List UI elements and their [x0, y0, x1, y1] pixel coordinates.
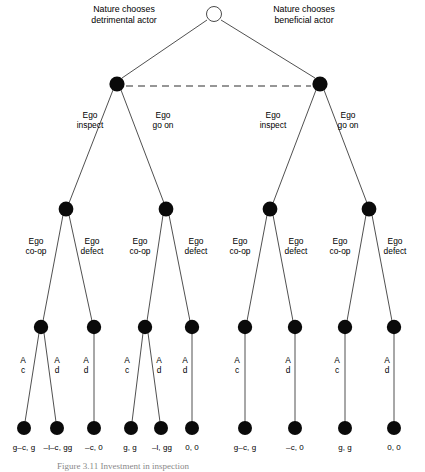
edge-n7-t1	[25, 333, 39, 422]
payoff-label-10: 0, 0	[387, 443, 401, 453]
action-label-a-d-2: A d	[83, 355, 89, 375]
edge-n1-n3	[69, 90, 113, 203]
edge-n7-t2	[44, 333, 56, 422]
edge-n6-n14	[372, 215, 392, 321]
action-label-a-d-5: A d	[285, 355, 291, 375]
edge-n5-n12	[273, 215, 293, 321]
node-alter-l4-4	[185, 320, 199, 334]
edge-label-ego-go-on-right: Ego go on	[338, 110, 359, 130]
terminal-node-6	[185, 421, 199, 435]
action-label-a-d-4: A d	[182, 355, 188, 375]
edge-n2-n6	[324, 90, 367, 203]
payoff-label-5: –l, gg	[152, 443, 172, 453]
edge-root-left	[122, 20, 207, 78]
edge-label-ego-defect-1: Ego defect	[81, 236, 104, 256]
edge-n1-n4	[121, 90, 164, 203]
terminal-node-2	[50, 421, 64, 435]
node-alter-l4-7	[338, 320, 352, 334]
edge-label-ego-coop-4: Ego co-op	[330, 236, 351, 256]
edge-label-ego-defect-4: Ego defect	[384, 236, 407, 256]
node-ego-l3-3	[263, 202, 278, 217]
nature-label-left: Nature chooses detrimental actor	[91, 4, 157, 26]
node-ego-beneficial	[312, 76, 327, 91]
edge-root-right	[221, 20, 315, 78]
node-alter-l4-8	[387, 320, 401, 334]
payoff-label-4: g, g	[123, 443, 137, 453]
terminal-node-10	[387, 421, 401, 435]
game-tree-figure: Nature chooses detrimental actor Nature …	[0, 0, 425, 472]
edge-label-ego-coop-1: Ego co-op	[26, 236, 47, 256]
action-label-a-c-4: A c	[334, 355, 340, 375]
edge-n2-n5	[273, 90, 316, 203]
edge-label-ego-defect-2: Ego defect	[185, 236, 208, 256]
terminal-node-9	[338, 421, 352, 435]
node-ego-l3-4	[362, 202, 377, 217]
edge-n4-n10	[169, 215, 190, 321]
action-label-a-c-2: A c	[124, 355, 130, 375]
edge-n9-t5	[148, 333, 160, 422]
edge-label-ego-inspect-left: Ego inspect	[77, 110, 104, 130]
terminal-node-4	[124, 421, 138, 435]
node-ego-detrimental	[109, 76, 124, 91]
edge-label-ego-coop-3: Ego co-op	[230, 236, 251, 256]
terminal-node-5	[154, 421, 168, 435]
node-ego-l3-2	[159, 202, 174, 217]
node-alter-l4-1	[34, 320, 48, 334]
node-ego-l3-1	[59, 202, 74, 217]
payoff-label-3: –c, 0	[85, 443, 103, 453]
nature-label-right: Nature chooses beneficial actor	[273, 4, 335, 26]
payoff-label-7: g–c, g	[234, 443, 256, 453]
tree-nodes	[17, 7, 401, 436]
payoff-label-2: –l–c, gg	[44, 443, 73, 453]
action-label-a-c-1: A c	[20, 355, 26, 375]
action-label-a-c-3: A c	[234, 355, 240, 375]
payoff-label-9: g, g	[338, 443, 352, 453]
terminal-node-7	[238, 421, 252, 435]
edge-n9-t4	[132, 333, 143, 422]
edge-label-ego-coop-2: Ego co-op	[130, 236, 151, 256]
terminal-node-1	[17, 421, 31, 435]
edge-n6-n13	[347, 215, 366, 321]
node-alter-l4-3	[138, 320, 152, 334]
action-label-a-d-3: A d	[156, 355, 162, 375]
edge-n5-n11	[247, 215, 267, 321]
payoff-label-8: –c, 0	[286, 443, 304, 453]
edge-n3-n8	[69, 215, 92, 321]
edge-n3-n7	[43, 215, 63, 321]
payoff-label-1: g–c, g	[13, 443, 35, 453]
edge-label-ego-go-on-left: Ego go on	[153, 110, 174, 130]
payoff-label-6: 0, 0	[185, 443, 199, 453]
node-alter-l4-5	[238, 320, 252, 334]
edge-n4-n9	[147, 215, 163, 321]
figure-caption: Figure 3.11 Investment in inspection	[57, 461, 189, 471]
action-label-a-d-6: A d	[384, 355, 390, 375]
root-node-nature	[207, 7, 222, 22]
game-tree-canvas	[0, 0, 425, 472]
action-label-a-d-1: A d	[54, 355, 60, 375]
edge-label-ego-inspect-right: Ego inspect	[260, 110, 287, 130]
terminal-node-3	[87, 421, 101, 435]
terminal-node-8	[288, 421, 302, 435]
edge-label-ego-defect-3: Ego defect	[285, 236, 308, 256]
node-alter-l4-6	[288, 320, 302, 334]
node-alter-l4-2	[87, 320, 101, 334]
